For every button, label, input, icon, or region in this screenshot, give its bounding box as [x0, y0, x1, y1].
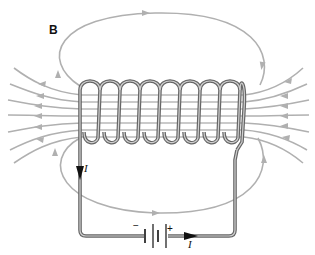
field-label-b: B — [49, 23, 58, 37]
battery — [145, 224, 166, 248]
field-loop-top — [55, 10, 266, 86]
battery-positive-label: + — [167, 223, 173, 234]
field-lines-right — [244, 68, 309, 163]
current-label-top: I — [84, 162, 88, 174]
current-arrow-down-icon — [76, 166, 84, 180]
battery-negative-label: − — [133, 220, 139, 231]
solenoid-diagram — [0, 0, 315, 255]
field-lines-left — [8, 68, 82, 163]
current-label-bottom: I — [188, 238, 192, 250]
